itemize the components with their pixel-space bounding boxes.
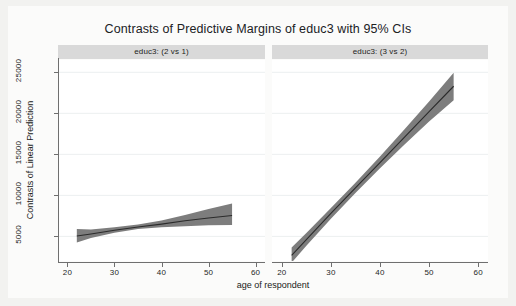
y-tick-label: 20000 bbox=[14, 92, 23, 132]
plot-area-right bbox=[272, 60, 488, 261]
x-tick-label: 20 bbox=[55, 268, 79, 277]
y-tick-mark bbox=[54, 154, 58, 155]
x-tick-mark bbox=[478, 263, 479, 267]
chart-title: Contrasts of Predictive Margins of educ3… bbox=[0, 22, 516, 36]
confidence-interval-band bbox=[292, 73, 454, 261]
y-tick-label: 5000 bbox=[14, 215, 23, 255]
y-tick-mark bbox=[54, 195, 58, 196]
series-svg-left bbox=[58, 60, 265, 261]
x-tick-mark bbox=[256, 263, 257, 267]
x-tick-label: 30 bbox=[102, 268, 126, 277]
y-tick-label: 15000 bbox=[14, 133, 23, 173]
x-tick-label: 50 bbox=[417, 268, 441, 277]
x-tick-mark bbox=[380, 263, 381, 267]
x-tick-mark bbox=[331, 263, 332, 267]
y-tick-mark bbox=[54, 236, 58, 237]
panel-header-left: educ3: (2 vs 1) bbox=[58, 45, 265, 59]
x-tick-mark bbox=[162, 263, 163, 267]
x-tick-label: 20 bbox=[270, 268, 294, 277]
x-tick-label: 40 bbox=[368, 268, 392, 277]
y-tick-label: 10000 bbox=[14, 174, 23, 214]
plot-area-left bbox=[58, 60, 265, 261]
chart-screenshot: Contrasts of Predictive Margins of educ3… bbox=[0, 0, 516, 306]
y-axis-label: Contrasts of Linear Prediction bbox=[25, 75, 35, 245]
x-tick-mark bbox=[282, 263, 283, 267]
x-tick-label: 50 bbox=[197, 268, 221, 277]
x-tick-label: 60 bbox=[466, 268, 490, 277]
x-tick-label: 40 bbox=[150, 268, 174, 277]
y-tick-label: 25000 bbox=[14, 51, 23, 91]
series-svg-right bbox=[272, 60, 488, 261]
fit-line bbox=[292, 86, 454, 255]
x-axis-label: age of respondent bbox=[58, 280, 488, 290]
x-tick-mark bbox=[209, 263, 210, 267]
x-tick-label: 60 bbox=[244, 268, 268, 277]
x-tick-mark bbox=[114, 263, 115, 267]
y-axis-line bbox=[58, 58, 59, 263]
x-tick-mark bbox=[429, 263, 430, 267]
x-tick-mark bbox=[67, 263, 68, 267]
panel-header-right: educ3: (3 vs 2) bbox=[272, 45, 488, 59]
x-tick-label: 30 bbox=[319, 268, 343, 277]
y-tick-mark bbox=[54, 72, 58, 73]
y-tick-mark bbox=[54, 113, 58, 114]
